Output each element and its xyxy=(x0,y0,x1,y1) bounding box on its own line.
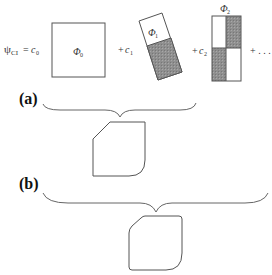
config-phi1: Φ 1 xyxy=(139,13,182,80)
coef-c0-sub: 0 xyxy=(36,50,39,56)
shape-a xyxy=(93,122,145,176)
ci-diagram: ψ CI = c 0 Φ 0 + c 1 Φ 1 + c 2 Φ 2 + xyxy=(0,0,272,275)
phi2-shade-bottom-left xyxy=(212,48,226,81)
shape-b xyxy=(129,216,182,270)
phi1-shaded-half xyxy=(147,38,182,80)
config-phi2: Φ 2 xyxy=(212,3,241,81)
brace-a xyxy=(43,103,196,117)
term-c1: + c 1 xyxy=(118,44,133,56)
equation-lhs: ψ CI = c 0 xyxy=(4,43,39,57)
config-phi0: Φ 0 xyxy=(52,23,105,77)
equals-sign: = xyxy=(23,44,29,55)
phi0-sub: 0 xyxy=(80,52,83,58)
plus-sign-1: + xyxy=(118,44,124,55)
phi1-sub: 1 xyxy=(155,33,158,39)
panel-b: (b) xyxy=(19,175,268,270)
phi2-shade-top-right xyxy=(226,16,241,48)
panel-b-label: (b) xyxy=(19,175,39,193)
psi-symbol: ψ xyxy=(4,43,11,55)
panel-a: (a) xyxy=(19,90,196,176)
panel-a-label: (a) xyxy=(19,90,38,108)
coef-c1-sub: 1 xyxy=(130,50,133,56)
term-c2: + c 2 xyxy=(192,45,207,57)
trailing-ellipsis: + . . . xyxy=(250,45,271,56)
plus-sign-2: + xyxy=(192,45,198,56)
brace-b xyxy=(43,193,268,212)
coef-c2-sub: 2 xyxy=(204,51,207,57)
psi-subscript: CI xyxy=(11,49,19,57)
phi2-sub: 2 xyxy=(227,9,230,15)
